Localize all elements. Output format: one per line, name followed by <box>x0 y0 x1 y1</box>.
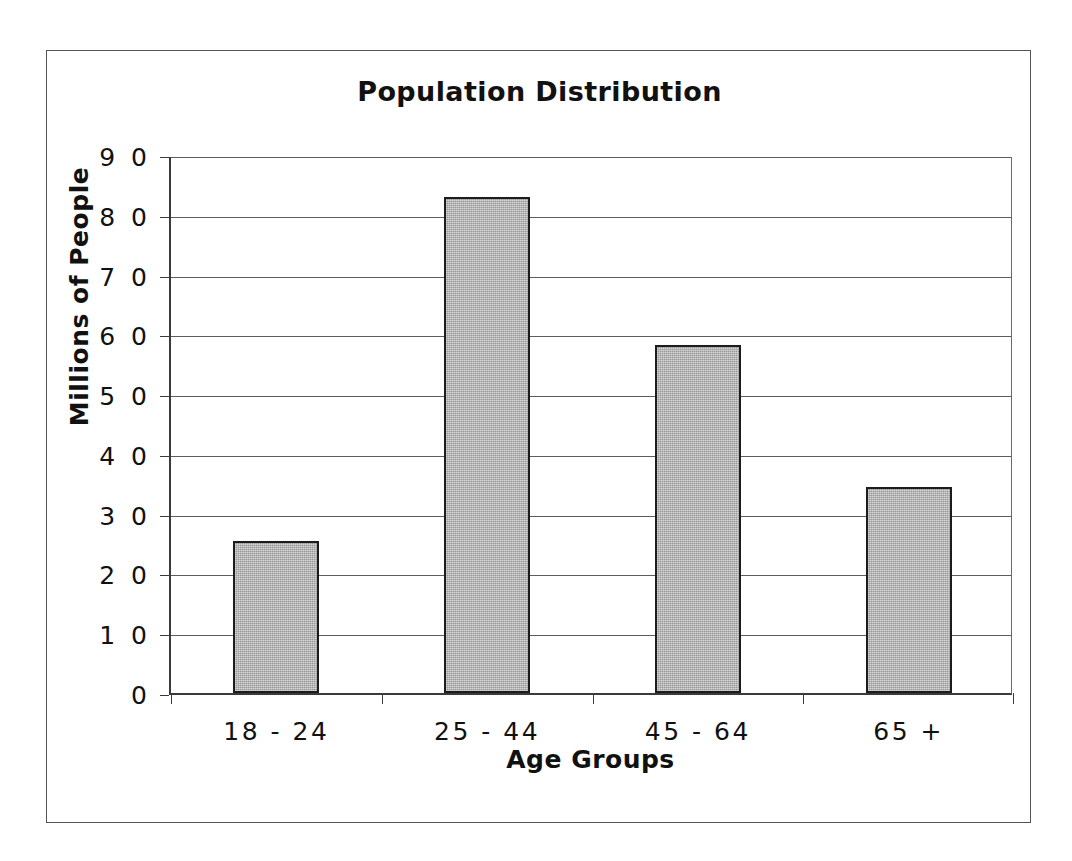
y-axis-tick <box>160 217 169 218</box>
bar <box>866 487 952 693</box>
gridline <box>171 157 1011 158</box>
gridline <box>171 217 1011 218</box>
chart-frame: Population Distribution 01 02 03 04 05 0… <box>46 50 1031 823</box>
y-axis-tick <box>160 575 169 576</box>
y-axis-tick-label: 0 <box>131 681 151 710</box>
x-axis-tick <box>171 693 172 704</box>
x-axis-tick <box>593 693 594 704</box>
bar <box>655 345 741 694</box>
y-axis-tick <box>160 277 169 278</box>
x-axis-title: Age Groups <box>169 745 1012 774</box>
y-axis-tick <box>160 336 169 337</box>
y-axis-tick-label: 6 0 <box>99 322 151 351</box>
x-axis-tick-label: 65 + <box>873 717 944 746</box>
x-axis-tick <box>1013 693 1014 704</box>
y-axis-tick <box>160 396 169 397</box>
x-axis-tick-label: 45 - 64 <box>645 717 751 746</box>
gridline <box>171 456 1011 457</box>
gridline <box>171 396 1011 397</box>
x-axis-tick <box>803 693 804 704</box>
y-axis-tick-label: 3 0 <box>99 501 151 530</box>
y-axis-tick <box>160 635 169 636</box>
y-axis-tick <box>160 516 169 517</box>
x-axis-tick <box>382 693 383 704</box>
bar <box>444 197 530 693</box>
gridline <box>171 336 1011 337</box>
y-axis-tick-label: 2 0 <box>99 561 151 590</box>
y-axis-tick <box>160 456 169 457</box>
bar <box>233 541 319 693</box>
y-axis-tick-label: 7 0 <box>99 262 151 291</box>
y-axis-tick <box>160 157 169 158</box>
y-axis-tick-label: 5 0 <box>99 382 151 411</box>
y-axis-tick-label: 1 0 <box>99 621 151 650</box>
x-axis-tick-label: 18 - 24 <box>223 717 329 746</box>
plot-area: 01 02 03 04 05 06 07 08 09 0 18 - 2425 -… <box>169 157 1012 695</box>
chart-title: Population Distribution <box>47 76 1032 107</box>
y-axis-title: Millions of People <box>65 28 94 566</box>
gridline <box>171 277 1011 278</box>
y-axis-tick-label: 4 0 <box>99 441 151 470</box>
x-axis-tick-label: 25 - 44 <box>434 717 540 746</box>
y-axis-tick-label: 9 0 <box>99 143 151 172</box>
y-axis-tick-label: 8 0 <box>99 202 151 231</box>
y-axis-tick <box>160 695 169 696</box>
